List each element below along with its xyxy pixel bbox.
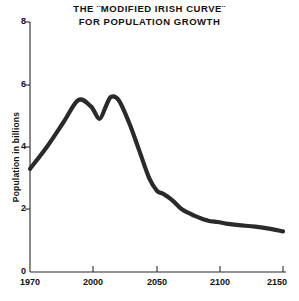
population-growth-chart: THE ¨MODIFIED IRISH CURVE¨ FOR POPULATIO…	[0, 0, 299, 301]
population-curve	[30, 96, 283, 231]
chart-canvas	[0, 0, 299, 301]
